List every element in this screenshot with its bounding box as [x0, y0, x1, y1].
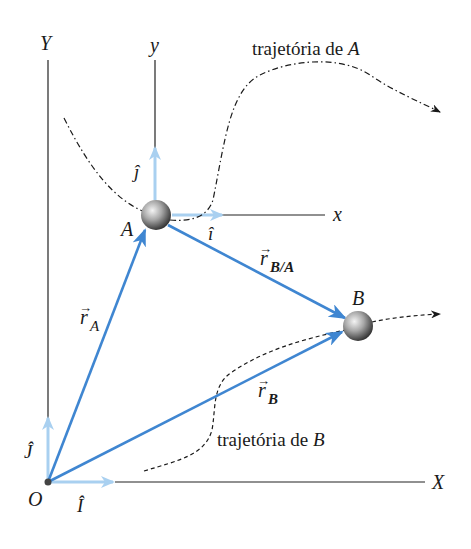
- origin-label: O: [28, 488, 42, 510]
- svg-text:→: →: [257, 373, 270, 388]
- particle-B-label: B: [352, 287, 364, 309]
- particle-A-label: A: [119, 218, 134, 240]
- particle-B-sphere: [343, 311, 373, 341]
- vector-r-A-label: r → A: [79, 300, 100, 334]
- trajectory-A: trajetória de A: [64, 38, 440, 220]
- vector-r-B-label: r → B: [257, 373, 278, 407]
- relative-motion-diagram: Y X O Ĵ Î y x ĵ î trajetória de A trajet…: [0, 0, 471, 549]
- vector-r-A-arrow: [48, 230, 145, 482]
- particle-B: B: [343, 287, 373, 341]
- vector-r-B-arrow: [48, 332, 342, 482]
- x-axis-label: x: [332, 203, 342, 225]
- unit-vector-J-label: Ĵ: [24, 441, 34, 462]
- unit-vector-j-label: ĵ: [131, 161, 141, 182]
- trajectory-A-label: trajetória de A: [252, 38, 360, 59]
- svg-text:→: →: [259, 241, 272, 256]
- trajectory-B-label: trajetória de B: [217, 429, 325, 450]
- svg-text:B: B: [267, 391, 278, 407]
- particle-A: A: [119, 200, 171, 240]
- y-axis-label: y: [148, 34, 159, 57]
- X-axis-label: X: [431, 471, 445, 493]
- origin-point: [45, 479, 52, 486]
- vector-r-BA-arrow: [168, 225, 345, 318]
- particle-A-sphere: [141, 200, 171, 230]
- svg-text:→: →: [79, 300, 92, 315]
- unit-vector-I-label: Î: [76, 495, 85, 516]
- trajectory-B: trajetória de B: [144, 314, 440, 471]
- unit-vector-i-label: î: [208, 223, 215, 244]
- Y-axis-label: Y: [40, 32, 53, 54]
- svg-text:B/A: B/A: [269, 259, 294, 275]
- svg-text:A: A: [89, 318, 100, 334]
- trajectory-A-curve: [64, 62, 440, 221]
- vector-r-BA-label: r → B/A: [259, 241, 294, 275]
